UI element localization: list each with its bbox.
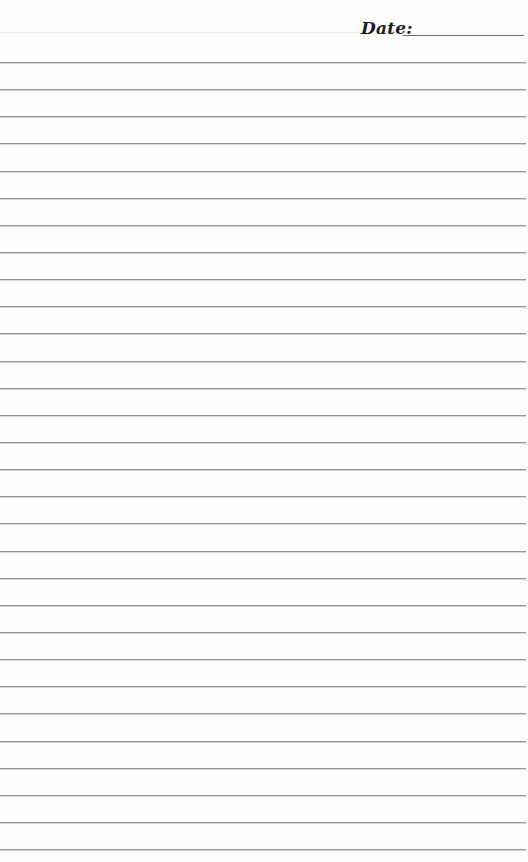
writing-line: [0, 578, 526, 580]
writing-line: [0, 741, 526, 743]
writing-line: [0, 116, 526, 118]
writing-line: [0, 822, 526, 824]
writing-line: [0, 849, 526, 851]
writing-line: [0, 198, 526, 200]
writing-line: [0, 361, 526, 363]
writing-line: [0, 496, 526, 498]
writing-line: [0, 143, 526, 145]
writing-line: [0, 795, 526, 797]
writing-line: [0, 551, 526, 553]
writing-line: [0, 388, 526, 390]
writing-line: [0, 523, 526, 525]
writing-line: [0, 632, 526, 634]
writing-line: [0, 171, 526, 173]
writing-line: [0, 225, 526, 227]
lined-paper-page: Date:: [0, 0, 528, 862]
ruled-lines: [0, 0, 528, 862]
writing-line: [0, 279, 526, 281]
writing-line: [0, 306, 526, 308]
writing-line: [0, 333, 526, 335]
writing-line: [0, 659, 526, 661]
writing-line: [0, 62, 526, 64]
writing-line: [0, 89, 526, 91]
writing-line: [0, 768, 526, 770]
writing-line: [0, 252, 526, 254]
writing-line: [0, 442, 526, 444]
writing-line: [0, 469, 526, 471]
writing-line: [0, 415, 526, 417]
writing-line: [0, 713, 526, 715]
writing-line: [0, 605, 526, 607]
writing-line: [0, 686, 526, 688]
